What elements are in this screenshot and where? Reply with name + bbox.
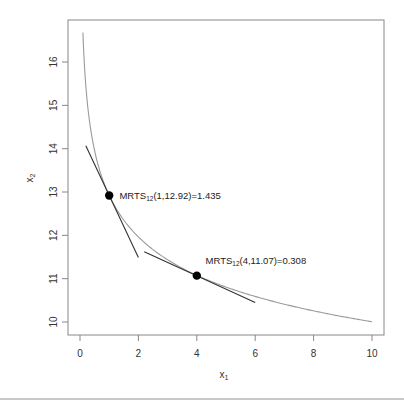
x-tick-label: 4 bbox=[194, 348, 200, 359]
tangent-1-line bbox=[86, 146, 139, 258]
x-tick-label: 2 bbox=[136, 348, 142, 359]
y-axis: 10111213141516 bbox=[48, 56, 68, 328]
y-tick-label: 13 bbox=[48, 186, 59, 198]
isoquant-curve bbox=[83, 32, 372, 321]
y-tick-label: 12 bbox=[48, 229, 59, 241]
y-tick-label: 15 bbox=[48, 99, 59, 111]
x-axis: 0246810 bbox=[77, 335, 378, 359]
x-tick-label: 8 bbox=[311, 348, 317, 359]
y-axis-title: x2 bbox=[24, 173, 36, 182]
y-tick-label: 16 bbox=[48, 56, 59, 68]
tangent-point bbox=[105, 191, 113, 199]
tangent-points bbox=[105, 191, 201, 280]
x-tick-label: 0 bbox=[77, 348, 83, 359]
y-tick-label: 11 bbox=[48, 273, 59, 284]
y-tick-label: 10 bbox=[48, 316, 59, 328]
annotations: MRTS12(1,12.92)=1.435MRTS12(4,11.07)=0.3… bbox=[119, 190, 306, 267]
mrts-annotation: MRTS12(1,12.92)=1.435 bbox=[119, 190, 220, 203]
x-tick-label: 10 bbox=[366, 348, 378, 359]
x-tick-label: 6 bbox=[252, 348, 258, 359]
x-axis-title: x1 bbox=[220, 369, 229, 381]
tangent-point bbox=[193, 271, 201, 279]
y-tick-label: 14 bbox=[48, 143, 59, 155]
mrts-annotation: MRTS12(4,11.07)=0.308 bbox=[206, 255, 307, 268]
bottom-divider bbox=[0, 398, 404, 400]
plot-series bbox=[83, 32, 372, 321]
plot-frame bbox=[68, 20, 384, 335]
mrts-chart: 0246810 10111213141516 MRTS12(1,12.92)=1… bbox=[0, 0, 404, 406]
